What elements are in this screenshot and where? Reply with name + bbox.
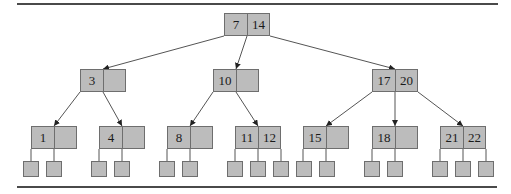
tree-node-root: 714 — [224, 13, 270, 36]
leaf-node — [46, 161, 62, 177]
leaf-node — [227, 161, 243, 177]
leaf-node — [319, 161, 335, 177]
node-key: 14 — [247, 14, 269, 35]
leaf-node — [91, 161, 107, 177]
tree-node-n17: 1720 — [372, 69, 418, 92]
node-key: 11 — [236, 127, 258, 148]
node-key: 3 — [81, 70, 103, 91]
tree-edge-arrow — [190, 92, 213, 126]
leaf-node — [387, 161, 403, 177]
leaf-node — [114, 161, 130, 177]
tree-edge-arrow — [326, 92, 372, 126]
node-key: 22 — [463, 127, 485, 148]
tree-edge-arrow — [236, 36, 247, 69]
node-key: 20 — [395, 70, 417, 91]
leaf-node — [182, 161, 198, 177]
node-key: 1 — [32, 127, 54, 148]
tree-edge-arrow — [236, 92, 258, 126]
node-key — [326, 127, 348, 148]
top-rule — [17, 3, 498, 5]
leaf-node — [364, 161, 380, 177]
node-key — [54, 127, 76, 148]
node-key: 8 — [168, 127, 190, 148]
leaf-node — [159, 161, 175, 177]
leaf-node — [273, 161, 289, 177]
node-key — [236, 70, 258, 91]
leaf-node — [296, 161, 312, 177]
tree-edge-arrow — [418, 92, 463, 126]
tree-node-n1: 1 — [31, 126, 77, 149]
tree-edge-arrow — [270, 36, 395, 69]
tree-node-n18: 18 — [372, 126, 418, 149]
leaf-node — [23, 161, 39, 177]
bottom-rule — [17, 186, 497, 188]
node-key: 7 — [225, 14, 247, 35]
tree-node-n10: 10 — [213, 69, 259, 92]
node-key: 12 — [258, 127, 280, 148]
tree-node-n3: 3 — [80, 69, 126, 92]
leaf-node — [432, 161, 448, 177]
leaf-node — [478, 161, 494, 177]
b-tree-diagram: 7143101720148111215182122 — [0, 0, 511, 194]
node-key: 18 — [373, 127, 395, 148]
node-key: 21 — [441, 127, 463, 148]
node-key: 15 — [304, 127, 326, 148]
tree-node-n4: 4 — [99, 126, 145, 149]
tree-node-n11: 1112 — [235, 126, 281, 149]
node-key: 4 — [100, 127, 122, 148]
node-key — [395, 127, 417, 148]
node-key: 10 — [214, 70, 236, 91]
leaf-node — [250, 161, 266, 177]
leaf-node — [455, 161, 471, 177]
node-key — [103, 70, 125, 91]
node-key — [122, 127, 144, 148]
tree-node-n21: 2122 — [440, 126, 486, 149]
node-key — [190, 127, 212, 148]
tree-edge-arrow — [103, 92, 122, 126]
tree-node-n8: 8 — [167, 126, 213, 149]
tree-node-n15: 15 — [303, 126, 349, 149]
node-key: 17 — [373, 70, 395, 91]
tree-edge-arrow — [103, 36, 224, 69]
tree-edge-arrow — [54, 92, 80, 126]
